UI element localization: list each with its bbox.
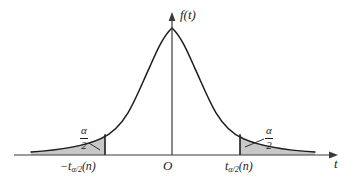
left-area-denominator: 2 [80, 140, 88, 152]
left-area-numerator: α [80, 125, 88, 137]
left-critical-minus-sign: − [60, 159, 68, 173]
right-critical-argument: (n) [239, 159, 253, 173]
left-critical-value-label: −tα/2(n) [60, 160, 96, 174]
left-critical-subscript: α/2 [71, 165, 81, 174]
right-tail-shaded-region [240, 135, 315, 155]
right-critical-subscript: α/2 [228, 165, 238, 174]
distribution-plot [0, 0, 345, 183]
left-area-fraction-label: α 2 [80, 125, 88, 151]
t-distribution-figure: f(t) t O −tα/2(n) tα/2(n) α 2 α 2 [0, 0, 345, 183]
x-axis-label: t [334, 157, 338, 170]
left-tail-shaded-region [31, 135, 105, 155]
right-area-numerator: α [265, 125, 273, 137]
right-area-fraction-label: α 2 [265, 125, 273, 151]
origin-label: O [163, 159, 172, 172]
y-axis-arrowhead [169, 12, 176, 21]
right-critical-value-label: tα/2(n) [225, 160, 253, 174]
left-critical-argument: (n) [82, 159, 96, 173]
y-axis-label: f(t) [180, 8, 196, 21]
right-area-denominator: 2 [265, 140, 273, 152]
